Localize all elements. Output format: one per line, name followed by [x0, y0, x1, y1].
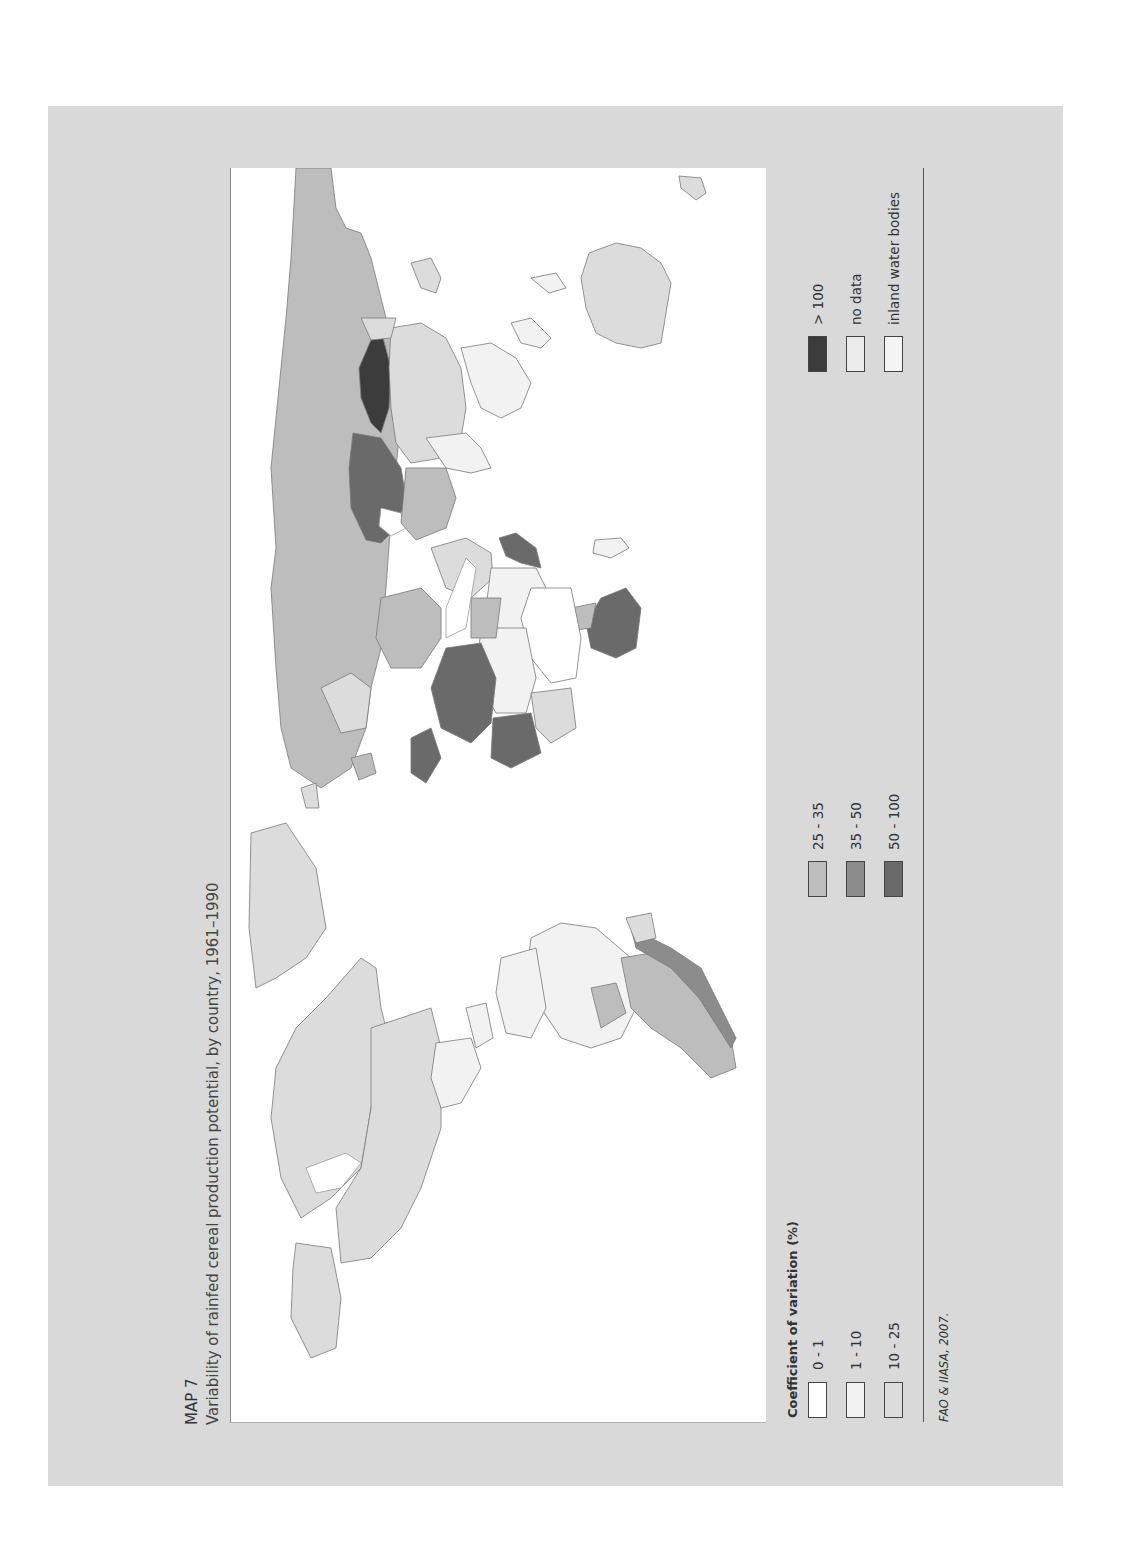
legend-label-10-25: 10 - 25: [886, 1322, 902, 1370]
legend-label-35-50: 35 - 50: [848, 802, 864, 850]
region-india: [426, 433, 491, 473]
region-madagascar: [593, 538, 629, 558]
map-title: Variability of rainfed cereal production…: [204, 882, 222, 1425]
legend-swatch-inland-water: [884, 336, 903, 372]
legend-swatch-50-100: [884, 861, 903, 897]
legend-swatch-35-50: [846, 861, 865, 897]
region-west-africa-light: [531, 688, 576, 743]
legend-swatch-0-1: [808, 1382, 827, 1418]
region-indonesia: [511, 273, 566, 348]
region-alaska: [291, 1243, 341, 1358]
region-middle-east: [401, 468, 456, 540]
region-southern-africa: [586, 588, 641, 658]
region-western-europe: [411, 728, 441, 783]
region-iceland: [301, 783, 319, 808]
legend-swatch-1-10: [846, 1382, 865, 1418]
region-west-africa: [491, 713, 541, 768]
region-central-europe: [376, 588, 441, 668]
legend-label-25-35: 25 - 35: [810, 802, 826, 850]
legend-swatch-over-100: [808, 336, 827, 372]
region-brazil: [526, 923, 641, 1048]
region-uruguay: [626, 913, 656, 943]
region-horn-of-africa: [499, 533, 541, 568]
region-australia: [581, 243, 671, 348]
world-map-svg: [231, 168, 766, 1422]
region-southeast-asia: [461, 343, 531, 418]
legend-swatch-10-25: [884, 1382, 903, 1418]
legend-swatch-no-data: [846, 336, 865, 372]
region-northwest-africa: [431, 643, 496, 743]
legend-title: Coefficient of variation (%): [785, 1221, 800, 1418]
source-credit: FAO & IIASA, 2007.: [937, 1313, 951, 1422]
region-new-zealand: [679, 176, 706, 200]
legend-label-over-100: > 100: [810, 284, 826, 325]
legend-label-0-1: 0 - 1: [810, 1339, 826, 1370]
legend-label-inland-water: inland water bodies: [886, 192, 902, 325]
legend-label-1-10: 1 - 10: [848, 1331, 864, 1370]
map-number: MAP 7: [183, 1378, 201, 1425]
legend-label-50-100: 50 - 100: [886, 794, 902, 850]
region-andes-north: [496, 948, 546, 1038]
region-greenland: [249, 823, 326, 988]
legend-separator: [923, 168, 924, 1422]
legend-swatch-25-35: [808, 861, 827, 897]
region-uk: [351, 753, 376, 780]
region-japan: [411, 258, 441, 293]
world-map: [230, 168, 766, 1423]
legend-label-no-data: no data: [848, 273, 864, 325]
region-mexico: [431, 1038, 481, 1108]
region-libya: [471, 598, 501, 638]
